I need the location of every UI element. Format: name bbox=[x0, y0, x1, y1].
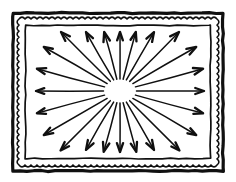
radiating-arrows-illustration bbox=[0, 0, 236, 182]
figure-canvas bbox=[0, 0, 236, 182]
burst-core-ellipse bbox=[105, 81, 135, 102]
